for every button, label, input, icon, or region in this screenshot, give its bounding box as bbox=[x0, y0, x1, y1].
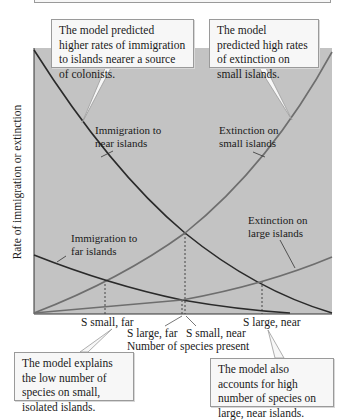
label-ext-small: Extinction on small islands bbox=[219, 124, 299, 150]
callout-top-left: The model predicted higher rates of immi… bbox=[51, 19, 194, 68]
callout-bottom-right: The model also accounts for high number … bbox=[210, 358, 334, 407]
callout-bottom-left: The model explains the low number of spe… bbox=[14, 352, 134, 401]
callout-top-right: The model predicted high rates of extinc… bbox=[209, 19, 319, 68]
leader-s-small-near bbox=[186, 316, 196, 326]
tick-s-large-far: S large, far bbox=[127, 327, 178, 339]
label-ext-large: Extinction on large islands bbox=[248, 214, 318, 240]
callout-bottom-right-text: The model also accounts for high number … bbox=[218, 363, 316, 419]
pointer-bottom-right bbox=[268, 330, 284, 358]
tick-s-large-near: S large, near bbox=[243, 316, 301, 328]
pointer-bottom-left bbox=[80, 329, 112, 352]
tick-s-small-near: S small, near bbox=[186, 327, 246, 339]
x-axis-label: Number of species present bbox=[127, 340, 249, 352]
y-axis-label: Rate of immigration or extinction bbox=[11, 102, 25, 262]
label-imm-near: Immigration to near islands bbox=[95, 124, 175, 150]
tick-s-small-far: S small, far bbox=[81, 316, 134, 328]
leader-s-large-far bbox=[165, 316, 182, 326]
label-imm-far: Immigration to far islands bbox=[71, 232, 141, 258]
